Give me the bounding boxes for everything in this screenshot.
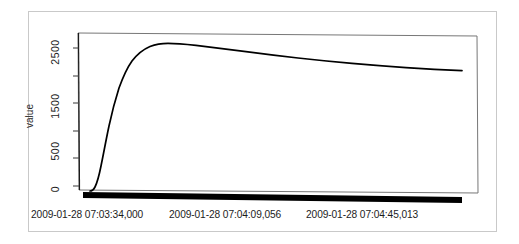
data-series-line bbox=[90, 43, 462, 191]
x-axis-dense-tick-bar bbox=[83, 192, 462, 203]
plot-box-frame bbox=[78, 33, 478, 193]
plot-svg bbox=[0, 0, 519, 244]
chart-area: value 0 500 1500 2500 2009-01-28 07:03:3… bbox=[0, 0, 519, 244]
